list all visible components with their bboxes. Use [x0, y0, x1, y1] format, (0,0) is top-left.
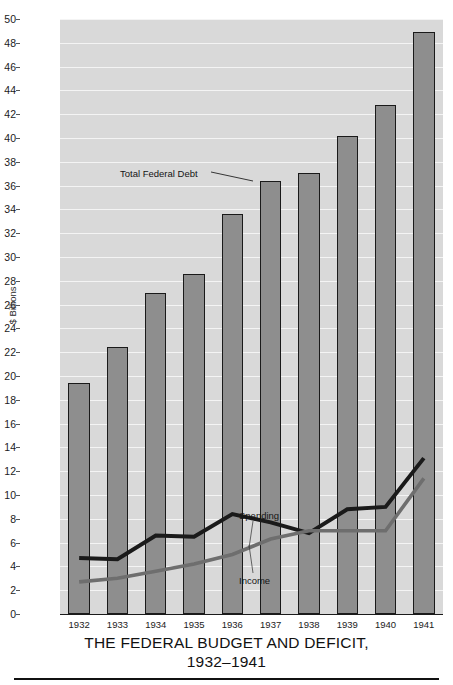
federal-budget-chart: 0246810121416182022242628303234363840424… — [0, 0, 453, 685]
annotation-leader-lines — [0, 0, 453, 685]
chart-title-line1: THE FEDERAL BUDGET AND DEFICIT, — [84, 634, 368, 651]
leader-total-federal-debt — [211, 172, 253, 181]
chart-title: THE FEDERAL BUDGET AND DEFICIT, 1932–194… — [0, 634, 453, 671]
chart-title-line2: 1932–1941 — [0, 653, 453, 672]
bottom-rule — [14, 678, 439, 680]
leader-income — [249, 545, 253, 573]
leader-spending — [249, 521, 253, 548]
